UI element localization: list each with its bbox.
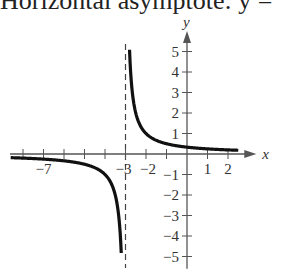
x-tick-label: −2 [140,161,156,177]
y-tick-label: 5 [172,44,180,60]
curve-branches [11,50,239,253]
y-tick-label: 4 [172,64,180,80]
y-axis-label: y [181,14,190,30]
x-tick-label: 1 [204,161,212,177]
y-tick-label: 2 [172,105,180,121]
x-axis-label: x [261,146,269,162]
axes: xy [10,14,269,269]
y-tick-label: 1 [172,126,180,142]
right-branch-curve [130,50,239,151]
y-tick-label: −1 [163,167,179,183]
y-tick-label: −3 [163,208,179,224]
x-axis-arrow-icon [244,150,256,158]
x-tick-label: 2 [224,161,232,177]
x-tick-label: −7 [36,161,52,177]
function-graph: xy −7−3−21254321−1−2−3−4−5 [0,0,281,277]
y-tick-label: 3 [172,85,180,101]
y-tick-label: −4 [163,228,179,244]
y-tick-label: −5 [163,249,179,265]
y-axis-arrow-icon [183,31,191,43]
x-tick-label: −3 [116,161,132,177]
left-branch-curve [11,158,122,253]
y-tick-label: −2 [163,187,179,203]
